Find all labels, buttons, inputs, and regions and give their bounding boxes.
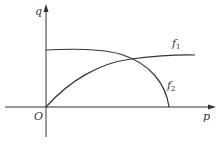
diagram-canvas [0, 0, 221, 146]
curve-f1-label: f1 [172, 38, 181, 51]
origin-label: O [34, 111, 43, 122]
origin-label-text: O [34, 110, 43, 123]
q-axis-label: q [35, 6, 42, 17]
q-axis-arrow-icon [44, 4, 49, 12]
q-label-text: q [35, 5, 42, 18]
curve-f2-label: f2 [167, 80, 176, 93]
curve-f2 [46, 49, 169, 107]
f2-subscript: 2 [171, 85, 175, 93]
f1-subscript: 1 [176, 43, 180, 51]
p-label-text: p [203, 110, 210, 123]
p-axis-label: p [203, 111, 210, 122]
p-axis-arrow-icon [208, 105, 216, 110]
